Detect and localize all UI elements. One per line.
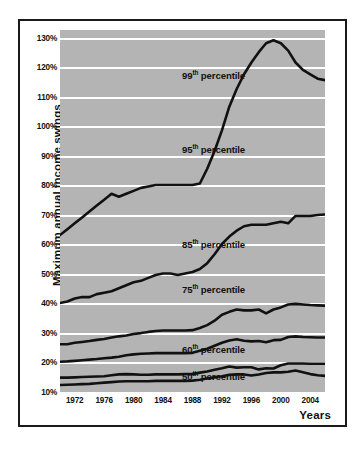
ann-50: 50th percentile	[182, 371, 245, 382]
annotation-number: 75	[182, 284, 192, 295]
y-tick-label: 130%	[37, 34, 57, 43]
ann-75: 75th percentile	[182, 284, 245, 295]
x-tick-label: 1980	[125, 396, 142, 405]
chart-frame: Maximum annual income swings 130%120%110…	[18, 19, 347, 427]
annotation-number: 60	[182, 344, 192, 355]
y-tick-label: 10%	[41, 388, 57, 397]
annotation-text: percentile	[198, 371, 245, 382]
y-tick-label: 110%	[37, 93, 57, 102]
ann-99: 99th percentile	[182, 70, 245, 81]
annotation-number: 95	[182, 144, 192, 155]
plot-area-wrapper: 99th percentile95th percentile85th perce…	[60, 30, 325, 393]
y-tick-label: 80%	[41, 181, 57, 190]
y-tick-label: 30%	[41, 329, 57, 338]
y-axis-ticks: 130%120%110%100%90%80%70%60%50%40%30%20%…	[20, 30, 57, 393]
y-tick-label: 120%	[37, 63, 57, 72]
annotation-number: 99	[182, 70, 192, 81]
x-tick-label: 1976	[95, 396, 112, 405]
y-tick-label: 90%	[41, 152, 57, 161]
x-tick-label: 1992	[213, 396, 230, 405]
series-curves	[60, 30, 325, 393]
x-tick-label: 1988	[184, 396, 201, 405]
annotation-text: percentile	[198, 70, 245, 81]
figure: Maximum annual income swings 130%120%110…	[0, 0, 361, 449]
annotation-number: 50	[182, 371, 192, 382]
x-tick-label: 2004	[302, 396, 319, 405]
plot-area: 99th percentile95th percentile85th perce…	[60, 30, 325, 393]
y-tick-label: 40%	[41, 299, 57, 308]
x-tick-label: 1996	[243, 396, 260, 405]
x-axis-ticks: 197219761980198419881992199620002004	[60, 396, 325, 410]
y-tick-label: 70%	[41, 211, 57, 220]
x-tick-label: 2000	[272, 396, 289, 405]
annotation-number: 85	[182, 239, 192, 250]
x-axis-title: Years	[299, 409, 331, 421]
annotation-text: percentile	[198, 284, 245, 295]
ann-60: 60th percentile	[182, 344, 245, 355]
y-tick-label: 100%	[37, 122, 57, 131]
y-tick-label: 60%	[41, 240, 57, 249]
ann-95: 95th percentile	[182, 144, 245, 155]
y-tick-label: 20%	[41, 358, 57, 367]
annotation-text: percentile	[198, 144, 245, 155]
y-tick-label: 50%	[41, 270, 57, 279]
ann-85: 85th percentile	[182, 239, 245, 250]
x-tick-label: 1984	[154, 396, 171, 405]
annotation-text: percentile	[198, 239, 245, 250]
x-tick-label: 1972	[66, 396, 83, 405]
annotation-text: percentile	[198, 344, 245, 355]
